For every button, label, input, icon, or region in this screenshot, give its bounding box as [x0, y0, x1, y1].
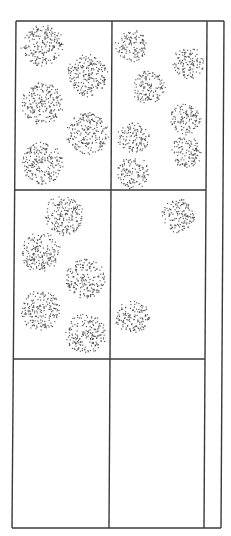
- dot-cluster: [45, 196, 83, 236]
- dot-cluster: [118, 123, 150, 153]
- dot-cluster: [21, 291, 60, 330]
- dot-cluster: [21, 25, 64, 66]
- border-right: [221, 21, 224, 528]
- dot-cluster: [22, 82, 63, 124]
- dot-cluster: [170, 104, 201, 136]
- grid-diagram: [0, 0, 231, 536]
- column-divider: [109, 21, 112, 528]
- dot-cluster: [68, 54, 108, 97]
- dot-cluster: [117, 158, 149, 189]
- dot-cluster: [134, 71, 166, 103]
- dot-cluster: [162, 199, 195, 233]
- dot-cluster: [22, 142, 63, 185]
- grid-frame: [12, 21, 224, 528]
- border-left: [12, 21, 16, 528]
- dot-cluster: [115, 30, 147, 62]
- dot-cluster: [22, 233, 61, 272]
- dot-cluster: [65, 314, 105, 353]
- cell-top-left: [21, 25, 109, 184]
- dot-cluster: [116, 301, 151, 333]
- side-column-divider: [204, 21, 207, 528]
- dot-cluster: [67, 112, 109, 155]
- cell-middle-left: [21, 196, 106, 353]
- dot-cluster: [171, 138, 201, 168]
- dot-cluster: [173, 49, 204, 79]
- cell-top-right: [115, 30, 204, 189]
- dot-cluster: [66, 259, 105, 299]
- cell-middle-right: [116, 199, 195, 333]
